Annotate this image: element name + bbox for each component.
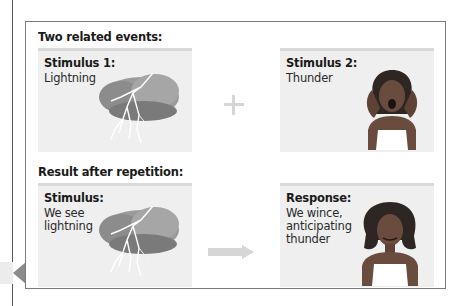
stimulus-2-box: Stimulus 2: Thunder	[280, 48, 434, 152]
arrow-right-icon	[208, 245, 254, 259]
woman-covering-ears-icon	[360, 68, 422, 150]
stimulus-box: Stimulus: We see lightning	[38, 183, 192, 287]
stimulus-1-box: Stimulus 1: Lightning	[38, 48, 192, 152]
response-box: Response: We wince, anticipating thunder	[280, 183, 434, 287]
box-text: We wince, anticipating thunder	[286, 207, 352, 246]
lightning-cloud-icon	[93, 200, 183, 282]
box-title: Stimulus 2:	[286, 56, 357, 70]
box-title: Response:	[286, 191, 351, 205]
plus-icon	[224, 95, 244, 115]
section-label-result: Result after repetition:	[38, 165, 183, 179]
box-text: We see lightning	[44, 207, 93, 233]
side-tab[interactable]	[0, 262, 13, 284]
lightning-cloud-icon	[93, 67, 183, 149]
section-label-related-events: Two related events:	[38, 30, 162, 44]
box-text: Lightning	[44, 72, 96, 85]
page-margin-line	[12, 284, 13, 306]
box-text: Thunder	[286, 72, 333, 85]
page-margin-line	[12, 0, 13, 262]
woman-wincing-icon	[358, 200, 422, 286]
